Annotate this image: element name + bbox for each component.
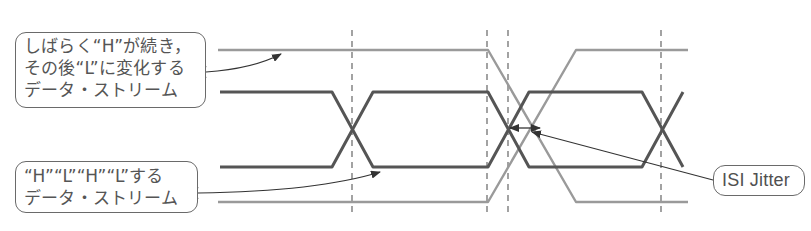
bottom-callout-bubble: “H”“L”“H”“L”する データ・ストリーム — [15, 161, 198, 213]
dark-stream — [220, 92, 683, 167]
top-callout-line-2: その後“L”に変化する — [24, 57, 205, 79]
top-callout-pointer — [206, 54, 281, 72]
bottom-callout-line-2: データ・ストリーム — [24, 187, 197, 209]
isi-jitter-label: ISI Jitter — [722, 166, 804, 194]
isi-jitter-callout: ISI Jitter — [713, 165, 805, 196]
cropped-caption-remnant — [15, 226, 395, 231]
bottom-callout-line-1: “H”“L”“H”“L”する — [24, 165, 197, 187]
dashed-markers — [352, 30, 661, 215]
gray-stream-high-to-low — [218, 50, 688, 202]
gray-stream-low-to-high — [218, 50, 688, 202]
top-callout-line-3: データ・ストリーム — [24, 79, 205, 101]
top-callout-bubble: しばらく“H”が続き， その後“L”に変化する データ・ストリーム — [15, 32, 206, 108]
top-callout-line-1: しばらく“H”が続き， — [24, 35, 205, 57]
dark-stream-trace-b — [220, 92, 683, 167]
bottom-callout-pointer — [198, 172, 380, 193]
gray-stream — [218, 50, 688, 202]
isi-jitter-diagram: しばらく“H”が続き， その後“L”に変化する データ・ストリーム “H”“L”… — [0, 0, 811, 231]
dark-stream-trace-a — [220, 92, 683, 167]
